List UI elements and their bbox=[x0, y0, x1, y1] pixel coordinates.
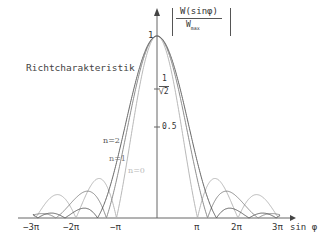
x-axis-label: sin φ bbox=[290, 222, 317, 232]
abs-bar-left bbox=[172, 8, 173, 36]
curve-label-n1: n=1 bbox=[109, 154, 126, 163]
y-axis-label: W(sinφ) Wmax bbox=[176, 6, 222, 31]
y-tick-label-one: 1 bbox=[148, 30, 153, 40]
x-tick-label-3pi: 3π bbox=[272, 222, 283, 232]
y-tick-label-sqrt-num: 1 bbox=[162, 74, 167, 83]
y-axis-arrow-icon bbox=[154, 8, 160, 16]
chart-title: Richtcharakteristik bbox=[26, 62, 135, 73]
y-label-denominator: Wmax bbox=[176, 19, 222, 31]
x-tick-label-pi: π bbox=[194, 222, 199, 232]
y-label-den-sub: max bbox=[191, 25, 200, 31]
x-tick-label-m3pi: −3π bbox=[23, 222, 39, 232]
x-axis-arrow-icon bbox=[290, 215, 296, 221]
x-tick-label-2pi: 2π bbox=[231, 222, 242, 232]
y-tick-label-half: 0.5 bbox=[162, 122, 176, 131]
x-tick-label-mpi: −π bbox=[110, 222, 121, 232]
curve-label-n2: n=2 bbox=[103, 136, 120, 145]
y-label-numerator: W(sinφ) bbox=[176, 6, 222, 19]
y-tick-label-sqrt-den: √2 bbox=[159, 86, 169, 96]
curve-label-n0: n=0 bbox=[128, 166, 145, 175]
x-tick-label-m2pi: −2π bbox=[63, 222, 79, 232]
abs-bar-right bbox=[230, 8, 231, 36]
